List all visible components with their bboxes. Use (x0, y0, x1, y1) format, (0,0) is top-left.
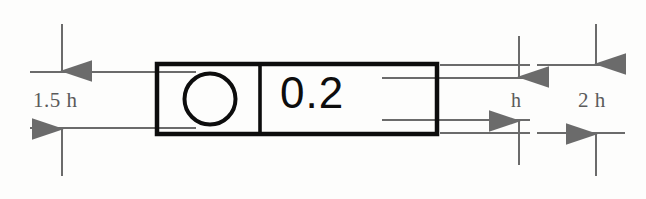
circularity-symbol (185, 74, 236, 125)
tolerance-value: 0.2 (280, 71, 344, 115)
technical-drawing-canvas: 0.2 1.5 h h 2 h (0, 0, 646, 199)
dimension-label-text-height: h (511, 89, 522, 112)
dimension-label-outer-height: 2 h (578, 88, 606, 113)
dimension-label-frame-height: 1.5 h (33, 88, 78, 113)
